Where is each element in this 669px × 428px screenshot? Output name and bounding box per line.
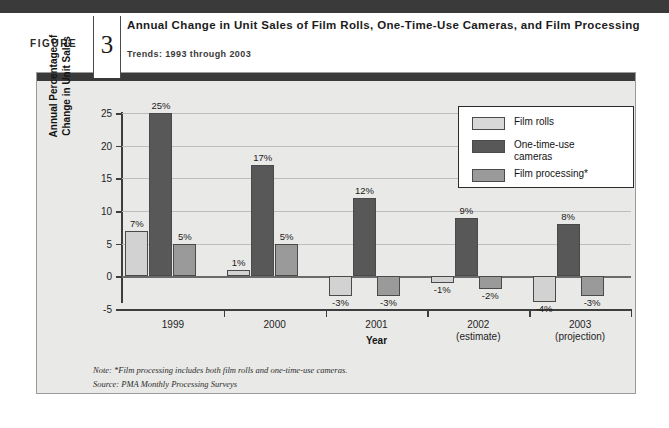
x-category-label: 1999: [122, 319, 224, 331]
bar-value-label: 12%: [347, 185, 382, 196]
figure-source: Source: PMA Monthly Processing Surveys: [93, 379, 237, 389]
legend-swatch: [472, 117, 505, 130]
bar: [377, 276, 400, 296]
bar-value-label: -3%: [575, 297, 610, 308]
x-axis-title: Year: [122, 335, 631, 346]
x-tick-mark: [631, 309, 632, 317]
legend-swatch: [472, 169, 505, 182]
bar: [581, 276, 604, 296]
figure-number: 3: [94, 32, 120, 57]
x-category-year: 2003: [529, 319, 631, 331]
bar: [455, 218, 478, 277]
bar: [431, 276, 454, 283]
legend-label: One-time-usecameras: [514, 139, 575, 163]
bar: [329, 276, 352, 296]
y-tick-mark: [116, 113, 122, 115]
page-top-rule: [0, 0, 669, 13]
legend-label: Film rolls: [514, 116, 554, 128]
legend-label-line: cameras: [514, 151, 575, 163]
y-tick-mark: [116, 146, 122, 148]
x-category-year: 2002: [427, 319, 529, 331]
bar: [227, 270, 250, 277]
bar: [275, 244, 298, 277]
legend-label: Film processing*: [514, 168, 588, 180]
legend-label-line: One-time-use: [514, 139, 575, 151]
y-tick-mark: [116, 178, 122, 180]
bar: [533, 276, 556, 302]
bar: [173, 244, 196, 277]
y-tick-mark: [116, 244, 122, 246]
bar-value-label: 1%: [221, 257, 256, 268]
x-category-year: 1999: [122, 319, 224, 331]
y-tick-mark: [116, 276, 122, 278]
y-tick-mark: [116, 211, 122, 213]
y-axis-title: Annual Percentage of Change in Unit Sale…: [47, 11, 73, 161]
gridline: [122, 244, 631, 245]
y-tick-label: 25: [101, 108, 112, 119]
y-tick-mark: [116, 309, 122, 311]
x-tick-mark: [427, 309, 428, 317]
bar-value-label: 5%: [167, 231, 202, 242]
x-category-year: 2001: [326, 319, 428, 331]
y-axis-title-line-2: Change in Unit Sales: [60, 11, 73, 161]
bar-value-label: -3%: [323, 297, 358, 308]
bar-value-label: -2%: [473, 290, 508, 301]
chart-panel: Annual Percentage of Change in Unit Sale…: [36, 72, 636, 394]
y-tick-label: 5: [106, 238, 112, 249]
y-axis-title-line-1: Annual Percentage of: [47, 11, 60, 161]
bar-value-label: 25%: [143, 100, 178, 111]
x-category-label: 2001: [326, 319, 428, 331]
bar: [149, 113, 172, 276]
y-tick-label: 10: [101, 206, 112, 217]
x-category-year: 2000: [224, 319, 326, 331]
figure-number-box: 3: [93, 16, 121, 78]
bar: [125, 231, 148, 277]
legend-swatch: [472, 140, 505, 153]
y-axis-line: [121, 112, 123, 303]
panel-top-rule: [37, 73, 635, 81]
bar-value-label: 9%: [449, 205, 484, 216]
figure-title: Annual Change in Unit Sales of Film Roll…: [127, 18, 647, 32]
y-tick-label: 0: [106, 271, 112, 282]
y-tick-label: -5: [103, 304, 112, 315]
y-tick-label: 20: [101, 140, 112, 151]
chart-legend: Film rollsOne-time-usecamerasFilm proces…: [458, 106, 634, 188]
legend-label-line: Film processing*: [514, 168, 588, 180]
bar-value-label: 17%: [245, 152, 280, 163]
bar-value-label: 7%: [119, 218, 154, 229]
bar-value-label: -1%: [425, 284, 460, 295]
bar-value-label: 8%: [551, 211, 586, 222]
figure-note: Note: *Film processing includes both fil…: [93, 365, 347, 375]
legend-label-line: Film rolls: [514, 116, 554, 128]
bar-value-label: -3%: [371, 297, 406, 308]
bar-value-label: 5%: [269, 231, 304, 242]
x-category-label: 2000: [224, 319, 326, 331]
bar: [479, 276, 502, 289]
figure-subtitle: Trends: 1993 through 2003: [127, 49, 647, 59]
x-tick-mark: [224, 309, 225, 317]
bar-value-label: -4%: [527, 303, 562, 314]
y-tick-label: 15: [101, 173, 112, 184]
x-tick-mark: [326, 309, 327, 317]
bar: [353, 198, 376, 276]
bar: [557, 224, 580, 276]
figure-header: FIGURE 3 Annual Change in Unit Sales of …: [0, 18, 669, 73]
